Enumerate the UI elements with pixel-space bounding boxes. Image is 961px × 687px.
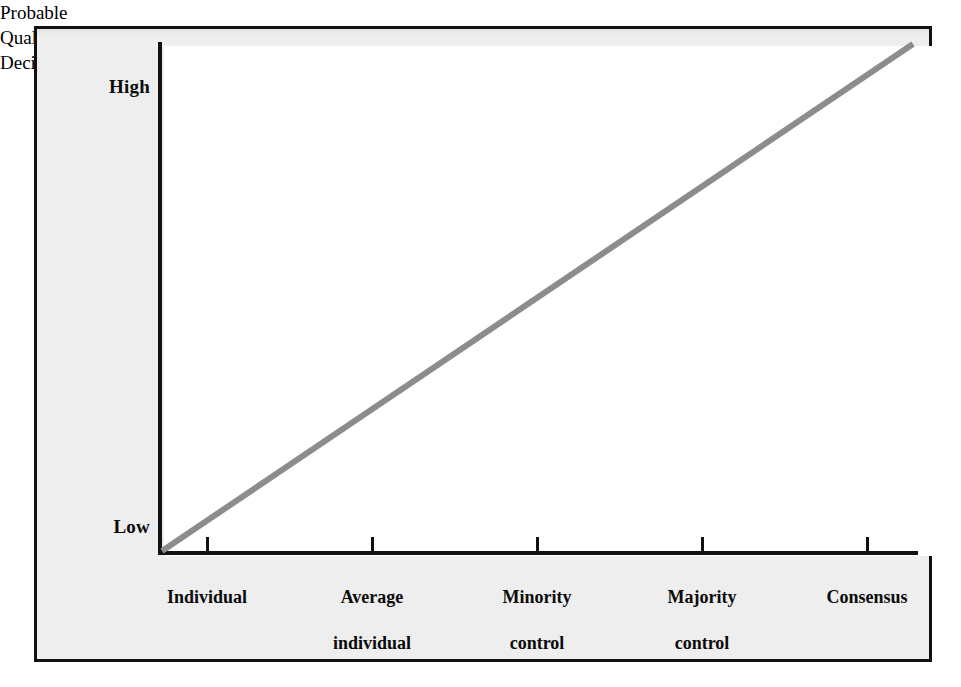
x-axis-label-average-individual: Average individual xyxy=(333,563,411,678)
x-axis-label-minority-control-line-2: control xyxy=(503,632,572,655)
x-axis-tick-consensus xyxy=(866,537,869,552)
x-axis-label-majority-control-line-1: Majority xyxy=(668,586,737,609)
x-axis-label-consensus: Consensus xyxy=(826,563,907,632)
y-axis-label-high: High xyxy=(109,76,150,98)
x-axis-label-majority-control: Majority control xyxy=(668,563,737,678)
plot-area-background xyxy=(164,46,954,556)
x-axis-label-majority-control-line-2: control xyxy=(668,632,737,655)
x-axis-label-individual: Individual xyxy=(167,563,247,632)
x-axis-label-consensus-line-1: Consensus xyxy=(826,586,907,609)
x-axis-label-minority-control: Minority control xyxy=(503,563,572,678)
y-axis-line xyxy=(158,42,162,555)
figure-container: High Low Probable Quality of Decision In… xyxy=(0,0,961,687)
paper-grain-texture xyxy=(37,29,929,43)
x-axis-tick-average-individual xyxy=(371,537,374,552)
x-axis-tick-minority-control xyxy=(536,537,539,552)
y-axis-label-low: Low xyxy=(114,516,151,538)
x-axis-label-individual-line-1: Individual xyxy=(167,586,247,609)
x-axis-tick-individual xyxy=(206,537,209,552)
y-axis-title-line-1: Probable xyxy=(0,0,961,25)
x-axis-label-average-individual-line-2: individual xyxy=(333,632,411,655)
x-axis-label-average-individual-line-1: Average xyxy=(333,586,411,609)
x-axis-label-minority-control-line-1: Minority xyxy=(503,586,572,609)
x-axis-tick-majority-control xyxy=(701,537,704,552)
